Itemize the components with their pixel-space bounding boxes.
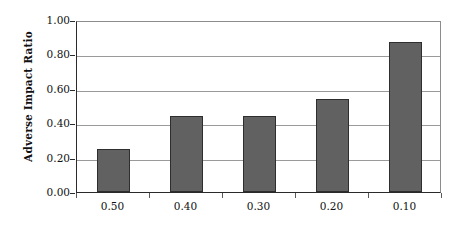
x-axis-tick-mark	[149, 193, 150, 198]
bar	[243, 116, 276, 192]
x-axis-tick-mark	[76, 193, 77, 198]
y-axis-tick-labels: 0.000.200.400.600.801.00	[28, 0, 70, 230]
bar	[316, 99, 349, 192]
y-axis-tick-label: 0.60	[34, 84, 70, 95]
x-axis-tick-mark	[441, 193, 442, 198]
y-axis-tick-mark	[70, 159, 75, 160]
y-axis-tick-mark	[70, 193, 75, 194]
x-axis-tick-label: 0.20	[302, 200, 362, 212]
bar	[170, 116, 203, 192]
plot-area	[76, 21, 441, 193]
y-axis-tick-label: 0.80	[34, 49, 70, 60]
x-axis-tick-mark	[222, 193, 223, 198]
bar-chart: Adverse Impact Ratio 0.000.200.400.600.8…	[0, 0, 462, 230]
y-axis-tick-label: 0.00	[34, 187, 70, 198]
y-axis-tick-label: 0.40	[34, 118, 70, 129]
x-axis-tick-mark	[295, 193, 296, 198]
y-axis-tick-mark	[70, 21, 75, 22]
x-axis-tick-label: 0.10	[375, 200, 435, 212]
y-axis-tick-mark	[70, 90, 75, 91]
bar	[389, 42, 422, 192]
bar	[97, 149, 130, 192]
gridline	[77, 56, 440, 57]
y-axis-tick-mark	[70, 55, 75, 56]
x-axis-tick-label: 0.30	[229, 200, 289, 212]
y-axis-tick-mark	[70, 124, 75, 125]
x-axis-tick-mark	[368, 193, 369, 198]
y-axis-tick-label: 1.00	[34, 15, 70, 26]
x-axis-tick-label: 0.40	[156, 200, 216, 212]
gridline	[77, 91, 440, 92]
x-axis-tick-label: 0.50	[83, 200, 143, 212]
y-axis-tick-label: 0.20	[34, 153, 70, 164]
